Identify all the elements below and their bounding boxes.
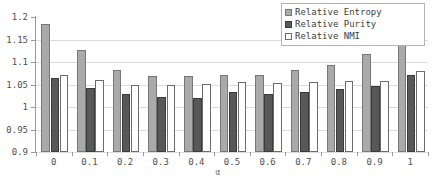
- x-tick-label: 0.6: [259, 157, 275, 167]
- legend-item-relative-purity: Relative Purity: [285, 18, 421, 30]
- x-tick-mark: [143, 152, 144, 156]
- x-tick-label: 0.7: [295, 157, 311, 167]
- legend-label-entropy: Relative Entropy: [295, 7, 382, 17]
- bar: [336, 89, 345, 152]
- bar-chart: 1.21.151.11.0510.950.9 00.10.20.30.40.50…: [0, 0, 436, 187]
- legend-item-relative-nmi: Relative NMI: [285, 30, 421, 42]
- y-tick-label: 0.9: [12, 148, 28, 157]
- bar: [238, 82, 247, 152]
- bar: [398, 30, 407, 152]
- x-tick-mark: [36, 152, 37, 156]
- bar: [255, 75, 264, 152]
- legend-swatch-icon-purity: [285, 21, 292, 28]
- legend-swatch-icon-nmi: [285, 33, 292, 40]
- x-axis-title: α: [0, 169, 436, 177]
- x-tick-label: 0.9: [366, 157, 382, 167]
- y-tick-label: 1.2: [12, 13, 28, 22]
- bar: [157, 97, 166, 152]
- bar: [220, 75, 229, 152]
- bar: [202, 84, 211, 152]
- x-tick-mark: [72, 152, 73, 156]
- bar: [327, 65, 336, 152]
- x-tick-mark: [285, 152, 286, 156]
- bar: [167, 85, 176, 153]
- x-tick-mark: [428, 152, 429, 156]
- x-tick-mark: [250, 152, 251, 156]
- bar: [371, 86, 380, 152]
- bar: [131, 85, 140, 152]
- bar: [345, 81, 354, 152]
- x-tick-label: 0.5: [224, 157, 240, 167]
- bar: [60, 75, 69, 152]
- y-tick-label: 1.1: [12, 58, 28, 67]
- bar: [229, 92, 238, 152]
- x-tick-label: 1: [407, 157, 412, 167]
- legend-label-nmi: Relative NMI: [295, 31, 360, 41]
- x-tick-label: 0.8: [331, 157, 347, 167]
- bar: [309, 82, 318, 152]
- x-tick-mark: [357, 152, 358, 156]
- y-tick-label: 1: [23, 103, 28, 112]
- bar: [86, 88, 95, 152]
- bar: [193, 98, 202, 152]
- bar: [41, 24, 50, 152]
- legend-item-relative-entropy: Relative Entropy: [285, 6, 421, 18]
- x-tick-label: 0.4: [188, 157, 204, 167]
- bar: [148, 76, 157, 152]
- bar: [380, 81, 389, 152]
- bar: [122, 94, 131, 153]
- gridline: [36, 152, 428, 153]
- x-tick-mark: [214, 152, 215, 156]
- x-tick-label: 0.3: [153, 157, 169, 167]
- bar: [77, 50, 86, 152]
- bar: [113, 70, 122, 152]
- bar: [184, 76, 193, 152]
- x-tick-mark: [179, 152, 180, 156]
- chart-legend: Relative Entropy Relative Purity Relativ…: [281, 3, 425, 46]
- x-tick-mark: [107, 152, 108, 156]
- bar: [291, 70, 300, 152]
- bar: [273, 83, 282, 152]
- x-tick-mark: [392, 152, 393, 156]
- y-tick-label: 0.95: [6, 126, 28, 135]
- bar: [95, 80, 104, 152]
- bar: [416, 71, 425, 152]
- bar: [407, 75, 416, 152]
- bar: [362, 54, 371, 152]
- bar: [300, 92, 309, 152]
- x-tick-label: 0.2: [117, 157, 133, 167]
- y-tick-label: 1.15: [6, 36, 28, 45]
- x-tick-label: 0: [51, 157, 56, 167]
- bar: [51, 78, 60, 152]
- y-tick-label: 1.05: [6, 81, 28, 90]
- x-tick-label: 0.1: [81, 157, 97, 167]
- legend-label-purity: Relative Purity: [295, 19, 376, 29]
- bar: [264, 94, 273, 152]
- x-tick-mark: [321, 152, 322, 156]
- legend-swatch-icon-entropy: [285, 9, 292, 16]
